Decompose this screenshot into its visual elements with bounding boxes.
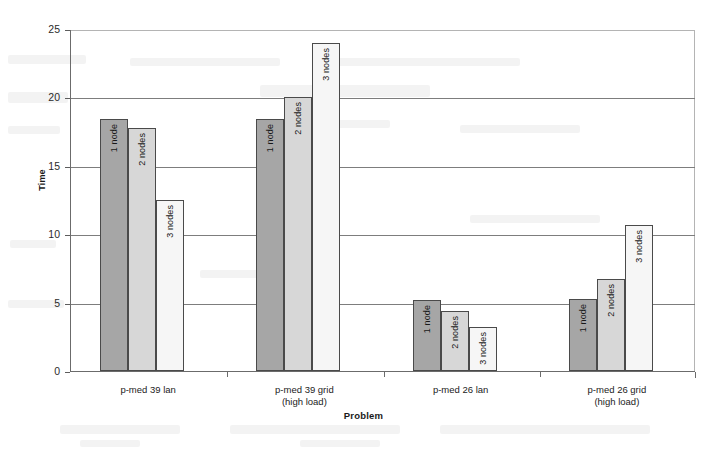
x-tick-label-line: (high load) bbox=[226, 396, 382, 408]
x-tick-label-line: p-med 39 grid bbox=[226, 384, 382, 396]
bar-value-label: 3 nodes bbox=[478, 332, 488, 365]
bar-2-nodes: 2 nodes bbox=[128, 128, 156, 372]
x-tick-label-line: p-med 26 grid bbox=[539, 384, 695, 396]
bar-1-node: 1 node bbox=[256, 119, 284, 371]
bar-value-label: 3 nodes bbox=[634, 230, 644, 263]
bar-value-label: 1 node bbox=[109, 124, 119, 152]
scan-artifact bbox=[440, 425, 650, 434]
y-tick-label: 25 bbox=[34, 23, 60, 35]
x-tick-label: p-med 39 lan bbox=[70, 384, 226, 396]
scan-artifact bbox=[80, 440, 140, 447]
bar-group: 1 node2 nodes3 nodes bbox=[384, 30, 540, 371]
x-tick-label: p-med 26 grid(high load) bbox=[539, 384, 695, 408]
scan-artifact bbox=[230, 425, 400, 434]
bar-value-label: 1 node bbox=[578, 304, 588, 332]
bar-2-nodes: 2 nodes bbox=[441, 311, 469, 371]
group-divider-tick bbox=[384, 371, 385, 377]
bar-group: 1 node2 nodes3 nodes bbox=[540, 30, 696, 371]
group-divider-tick bbox=[227, 371, 228, 377]
scan-artifact bbox=[300, 440, 380, 447]
y-tick-label: 15 bbox=[34, 160, 60, 172]
bar-1-node: 1 node bbox=[100, 119, 128, 371]
y-tick-label: 5 bbox=[34, 297, 60, 309]
bar-3-nodes: 3 nodes bbox=[312, 43, 340, 371]
x-axis-title: Problem bbox=[0, 410, 727, 421]
bar-chart-figure: Time 0510152025 1 node2 nodes3 nodes1 no… bbox=[0, 0, 727, 451]
bar-group: 1 node2 nodes3 nodes bbox=[71, 30, 227, 371]
y-tick-label: 10 bbox=[34, 228, 60, 240]
bar-value-label: 2 nodes bbox=[293, 102, 303, 135]
bar-3-nodes: 3 nodes bbox=[156, 200, 184, 371]
x-tick-label-line: p-med 39 lan bbox=[70, 384, 226, 396]
scan-artifact bbox=[8, 126, 60, 134]
bar-value-label: 1 node bbox=[265, 124, 275, 152]
bar-2-nodes: 2 nodes bbox=[597, 279, 625, 371]
x-tick-label-line: p-med 26 lan bbox=[383, 384, 539, 396]
bar-value-label: 3 nodes bbox=[321, 48, 331, 81]
x-tick-label-line: (high load) bbox=[539, 396, 695, 408]
bar-1-node: 1 node bbox=[569, 299, 597, 372]
x-tick-label: p-med 39 grid(high load) bbox=[226, 384, 382, 408]
y-tick-mark bbox=[65, 372, 70, 373]
group-divider-tick bbox=[540, 371, 541, 377]
x-axis-end-tick bbox=[695, 372, 696, 378]
bar-value-label: 1 node bbox=[422, 305, 432, 333]
bar-value-label: 2 nodes bbox=[606, 284, 616, 317]
scan-artifact bbox=[10, 240, 56, 248]
bar-2-nodes: 2 nodes bbox=[284, 97, 312, 371]
bar-value-label: 2 nodes bbox=[450, 316, 460, 349]
bar-value-label: 2 nodes bbox=[137, 133, 147, 166]
y-tick-label: 20 bbox=[34, 91, 60, 103]
y-tick-label: 0 bbox=[34, 365, 60, 377]
scan-artifact bbox=[60, 425, 180, 434]
bar-3-nodes: 3 nodes bbox=[625, 225, 653, 371]
bar-3-nodes: 3 nodes bbox=[469, 327, 497, 371]
bar-1-node: 1 node bbox=[413, 300, 441, 371]
plot-area: 1 node2 nodes3 nodes1 node2 nodes3 nodes… bbox=[70, 30, 695, 372]
bar-value-label: 3 nodes bbox=[165, 205, 175, 238]
bar-group: 1 node2 nodes3 nodes bbox=[227, 30, 383, 371]
x-tick-label: p-med 26 lan bbox=[383, 384, 539, 396]
